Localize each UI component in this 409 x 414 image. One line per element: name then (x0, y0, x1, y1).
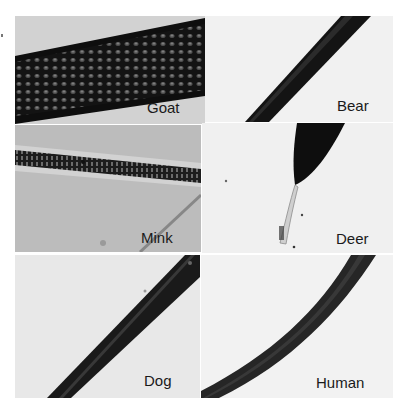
panel-label-mink: Mink (141, 230, 173, 245)
panel-human: Human (201, 255, 393, 398)
panel-label-goat: Goat (147, 100, 180, 115)
panel-bear: Bear (205, 16, 393, 122)
dog-hair-image (15, 255, 200, 398)
panel-goat: Goat (15, 16, 205, 124)
panel-label-dog: Dog (144, 373, 172, 388)
panel-label-bear: Bear (337, 98, 369, 113)
stray-mark (1, 34, 3, 37)
panel-dog: Dog (15, 255, 200, 398)
mink-hair-image (15, 125, 201, 252)
panel-deer: Deer (202, 123, 393, 253)
panel-label-deer: Deer (336, 231, 369, 246)
panel-mink: Mink (15, 125, 201, 252)
panel-label-human: Human (316, 375, 364, 390)
